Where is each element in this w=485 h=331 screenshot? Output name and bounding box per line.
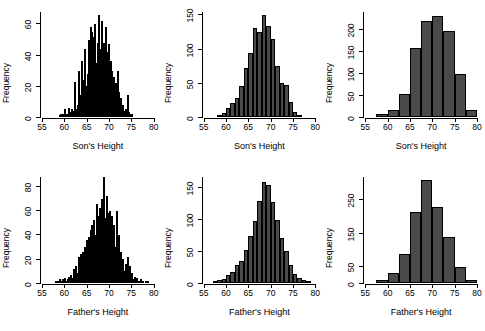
y-tick-label: 60	[24, 15, 33, 35]
panel-bottom-left: 556065707580020406080FrequencyFather's H…	[0, 165, 162, 331]
y-axis: 050100150200	[363, 12, 364, 118]
x-tick-label: 75	[127, 289, 136, 298]
histogram-bar	[443, 31, 454, 117]
x-axis-line	[42, 118, 154, 119]
plot-area	[42, 12, 154, 117]
x-axis-title: Father's Height	[365, 307, 477, 317]
y-tick-label: 100	[185, 40, 194, 60]
x-axis-line	[204, 284, 316, 285]
x-tick-label: 60	[221, 289, 230, 298]
y-tick-label: 60	[24, 202, 33, 222]
y-tick	[198, 14, 202, 15]
y-tick	[359, 51, 363, 52]
panel-bottom-right: 556065707580050150250FrequencyFather's H…	[323, 165, 485, 331]
bars-group	[204, 177, 316, 283]
y-axis: 020406080	[40, 177, 41, 284]
x-axis-title: Father's Height	[42, 307, 154, 317]
y-axis: 0204060	[40, 12, 41, 118]
y-tick-label: 150	[185, 179, 194, 199]
panel-top-middle: 556065707580050100150FrequencySon's Heig…	[162, 0, 324, 165]
histogram-bar	[147, 281, 149, 283]
y-tick-label: 0	[347, 275, 356, 295]
histogram-bar	[421, 21, 432, 117]
histogram-bar	[443, 237, 454, 283]
x-tick-label: 65	[405, 123, 414, 132]
x-axis-line	[204, 118, 316, 119]
x-tick-label: 55	[199, 123, 208, 132]
bars-group	[365, 177, 477, 283]
x-tick-label: 60	[383, 289, 392, 298]
y-tick	[359, 283, 363, 284]
y-tick-label: 100	[347, 64, 356, 84]
plot-area	[42, 177, 154, 283]
histogram-bar	[399, 254, 410, 283]
histogram-bar	[455, 74, 466, 117]
bars-group	[42, 177, 154, 283]
histogram-bar	[432, 16, 443, 118]
y-axis-title: Frequency	[163, 213, 173, 283]
y-axis-title: Frequency	[1, 48, 11, 118]
y-tick	[36, 210, 40, 211]
y-tick-label: 50	[185, 243, 194, 263]
x-tick-label: 55	[361, 123, 370, 132]
y-tick-label: 80	[24, 177, 33, 197]
histogram-bar	[410, 48, 421, 117]
y-tick	[36, 86, 40, 87]
y-tick	[359, 199, 363, 200]
y-axis-title: Frequency	[324, 48, 334, 118]
x-axis-line	[365, 284, 477, 285]
y-tick	[36, 186, 40, 187]
x-tick-label: 65	[405, 289, 414, 298]
x-tick-label: 55	[37, 289, 46, 298]
histogram-figure: 5560657075800204060FrequencySon's Height…	[0, 0, 485, 331]
x-tick-label: 70	[428, 289, 437, 298]
y-tick	[198, 187, 202, 188]
y-tick	[359, 233, 363, 234]
x-axis: 556065707580	[204, 284, 316, 285]
y-axis: 050100150	[202, 177, 203, 284]
bars-group	[204, 12, 316, 117]
histogram-bar	[410, 212, 421, 283]
plot-area	[365, 12, 477, 117]
histogram-bar	[388, 273, 399, 283]
bars-group	[42, 12, 154, 117]
x-axis-title: Son's Height	[365, 141, 477, 151]
y-tick	[36, 117, 40, 118]
x-tick-label: 80	[311, 289, 320, 298]
y-tick	[36, 259, 40, 260]
bars-group	[365, 12, 477, 117]
histogram-bar	[306, 281, 310, 283]
x-tick-label: 60	[383, 123, 392, 132]
y-tick-label: 0	[24, 109, 33, 129]
y-tick	[36, 283, 40, 284]
x-tick-label: 80	[149, 123, 158, 132]
y-tick	[198, 49, 202, 50]
x-tick-label: 75	[127, 123, 136, 132]
histogram-bar	[455, 267, 466, 283]
plot-area	[204, 177, 316, 283]
histogram-bar	[466, 280, 477, 283]
y-tick-label: 200	[347, 20, 356, 40]
plot-area	[365, 177, 477, 283]
plot-area	[204, 12, 316, 117]
panel-top-right: 556065707580050100150200FrequencySon's H…	[323, 0, 485, 165]
y-tick-label: 150	[185, 6, 194, 26]
y-tick-label: 250	[347, 191, 356, 211]
y-tick	[198, 117, 202, 118]
y-tick	[36, 23, 40, 24]
x-tick-label: 60	[60, 289, 69, 298]
y-axis: 050150250	[363, 177, 364, 284]
y-tick-label: 40	[24, 46, 33, 66]
x-tick-label: 80	[472, 123, 481, 132]
y-tick	[359, 117, 363, 118]
x-axis-title: Father's Height	[204, 307, 316, 317]
x-axis: 556065707580	[204, 118, 316, 119]
y-tick-label: 0	[185, 275, 194, 295]
histogram-bar	[421, 180, 432, 283]
panel-bottom-middle: 556065707580050100150FrequencyFather's H…	[162, 165, 324, 331]
y-tick	[198, 83, 202, 84]
x-axis-line	[42, 284, 154, 285]
y-tick-label: 50	[185, 74, 194, 94]
y-tick-label: 20	[24, 250, 33, 270]
y-axis-title: Frequency	[1, 213, 11, 283]
